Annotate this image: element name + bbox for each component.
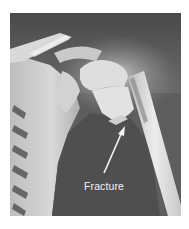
fracture-label: Fracture bbox=[82, 180, 126, 192]
